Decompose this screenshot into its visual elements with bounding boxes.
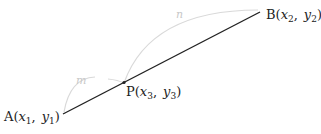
comma: , (32, 109, 36, 124)
comma: , (294, 7, 298, 22)
point-a-label: A(x1,y1) (3, 109, 60, 126)
point-b-name: B (266, 7, 276, 22)
point-p-name: P (126, 84, 135, 99)
arc-label-n: n (176, 8, 183, 21)
arc-m-tail (108, 79, 124, 83)
comma: , (153, 84, 157, 99)
paren-close: ) (55, 109, 60, 124)
paren-close: ) (176, 84, 181, 99)
point-a-name: A (3, 109, 14, 124)
segment-ab (63, 12, 260, 114)
point-b-label: B(x2,y2) (266, 7, 321, 24)
paren-close: ) (317, 7, 321, 22)
arc-label-m: m (76, 74, 86, 87)
point-p-label: P(x3,y3) (126, 84, 181, 101)
section-formula-diagram: m n A(x1,y1) P(x3,y3) B(x2,y2) (0, 0, 321, 134)
